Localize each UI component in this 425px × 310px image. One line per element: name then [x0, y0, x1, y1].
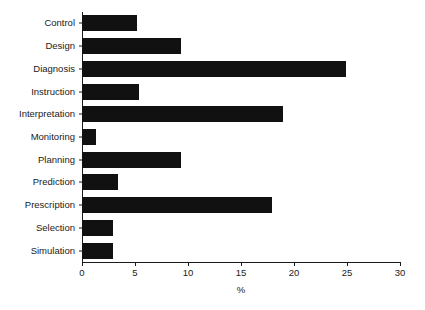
x-axis-tick-label: 15 [236, 268, 247, 278]
bar [82, 243, 113, 259]
x-axis-tick-label: 25 [342, 268, 353, 278]
bar-row: Planning [82, 149, 400, 170]
x-axis-title: % [237, 285, 245, 295]
x-axis-tick-label: 20 [289, 268, 300, 278]
bar-chart: ControlDesignDiagnosisInstructionInterpr… [0, 0, 425, 310]
bar-row: Prediction [82, 172, 400, 193]
bar-row: Design [82, 36, 400, 57]
y-axis-tick-label: Planning [38, 155, 75, 165]
bar [82, 152, 181, 168]
x-axis-tick-label: 0 [79, 268, 84, 278]
y-axis-tick-label: Interpretation [19, 110, 75, 120]
plot-area: ControlDesignDiagnosisInstructionInterpr… [82, 12, 400, 262]
bar [82, 61, 346, 77]
x-axis-tick [188, 262, 189, 266]
bar-row: Diagnosis [82, 58, 400, 79]
x-axis-tick [294, 262, 295, 266]
bar-row: Control [82, 13, 400, 34]
y-axis-tick-label: Diagnosis [33, 64, 75, 74]
x-axis-tick [400, 262, 401, 266]
y-axis-tick-label: Instruction [31, 87, 75, 97]
y-axis-tick-label: Design [45, 41, 75, 51]
bar [82, 129, 96, 145]
y-axis-tick-label: Prescription [25, 200, 75, 210]
bar [82, 38, 181, 54]
bar-row: Instruction [82, 81, 400, 102]
y-axis-tick-label: Control [44, 19, 75, 29]
bar-row: Selection [82, 217, 400, 238]
y-axis-tick-label: Monitoring [31, 132, 75, 142]
x-axis-tick [347, 262, 348, 266]
bar-row: Prescription [82, 195, 400, 216]
y-axis-tick-label: Selection [36, 223, 75, 233]
bar [82, 106, 283, 122]
y-axis-tick-label: Simulation [31, 246, 75, 256]
x-axis-tick [241, 262, 242, 266]
bar-row: Interpretation [82, 104, 400, 125]
bar [82, 197, 272, 213]
bar-row: Simulation [82, 240, 400, 261]
x-axis-tick-label: 5 [132, 268, 137, 278]
x-axis-tick-label: 10 [183, 268, 194, 278]
y-axis-tick-label: Prediction [33, 178, 75, 188]
bar-row: Monitoring [82, 127, 400, 148]
x-axis-tick [135, 262, 136, 266]
x-axis-tick-label: 30 [395, 268, 406, 278]
x-axis-tick [82, 262, 83, 266]
bar [82, 15, 137, 31]
bar [82, 84, 139, 100]
bar [82, 174, 118, 190]
bar [82, 220, 113, 236]
